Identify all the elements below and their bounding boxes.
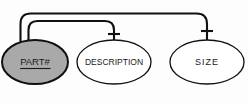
- connector-part-to-description-line: [29, 21, 115, 42]
- er-diagram-canvas: PART# DESCRIPTION SIZE: [0, 0, 249, 104]
- node-part-number[interactable]: PART#: [2, 40, 68, 84]
- node-description-label: DESCRIPTION: [85, 57, 143, 67]
- node-size-label: SIZE: [195, 57, 219, 67]
- er-diagram-svg: PART# DESCRIPTION SIZE: [0, 0, 249, 104]
- node-size[interactable]: SIZE: [170, 40, 244, 84]
- node-part-number-label: PART#: [20, 56, 50, 67]
- connector-part-to-size[interactable]: [21, 14, 214, 44]
- node-description[interactable]: DESCRIPTION: [77, 40, 151, 84]
- connector-part-to-description[interactable]: [29, 21, 121, 42]
